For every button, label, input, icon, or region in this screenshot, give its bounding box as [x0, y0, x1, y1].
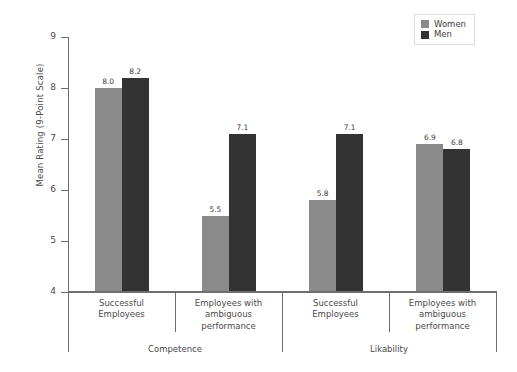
y-tick-label-5: 5	[30, 235, 56, 245]
category-label-line1: Employees with	[175, 298, 282, 309]
bar-women-competence-successful[interactable]	[95, 88, 122, 292]
plot-area: 8.0 8.2 5.5 7.1 5.8 7.1 6.9 6.8	[68, 37, 497, 292]
category-label-line2: ambiguous	[175, 309, 282, 320]
category-label-line2: ambiguous	[389, 309, 496, 320]
bar-value-label: 5.8	[303, 189, 342, 198]
category-label-likability-ambiguous: Employees with ambiguous performance	[389, 298, 496, 332]
category-label-line2: Employees	[282, 309, 389, 320]
y-tick-label-9: 9	[30, 31, 56, 41]
category-label-competence-ambiguous: Employees with ambiguous performance	[175, 298, 282, 332]
bar-chart: Women Men Mean Rating (9-Point Scale) 9 …	[0, 0, 517, 372]
group-axis-band: Competence Likability	[68, 340, 497, 364]
y-tick-label-7: 7	[30, 133, 56, 143]
y-tick-label-4: 4	[30, 286, 56, 296]
category-label-likability-successful: Successful Employees	[282, 298, 389, 321]
bar-value-label: 5.5	[196, 205, 235, 214]
y-tick-label-8: 8	[30, 82, 56, 92]
group-separator-left-edge	[68, 292, 69, 352]
legend-label-women: Women	[434, 19, 466, 29]
bar-women-likability-ambiguous[interactable]	[416, 144, 443, 292]
bar-women-competence-ambiguous[interactable]	[202, 216, 229, 293]
category-label-line2: Employees	[68, 309, 175, 320]
bar-men-competence-successful[interactable]	[122, 78, 149, 292]
legend-item-women: Women	[421, 19, 466, 29]
bar-women-likability-successful[interactable]	[309, 200, 336, 292]
group-label-competence: Competence	[68, 344, 282, 354]
group-label-likability: Likability	[282, 344, 496, 354]
category-label-competence-successful: Successful Employees	[68, 298, 175, 321]
category-label-line1: Successful	[282, 298, 389, 309]
women-color-swatch-icon	[421, 20, 429, 28]
category-label-line1: Successful	[68, 298, 175, 309]
bar-value-label: 7.1	[223, 123, 262, 132]
bar-men-likability-ambiguous[interactable]	[443, 149, 470, 292]
category-label-line3: performance	[389, 321, 496, 332]
category-label-line3: performance	[175, 321, 282, 332]
group-separator-middle	[282, 292, 283, 352]
y-axis-title: Mean Rating (9-Point Scale)	[35, 15, 45, 235]
bar-value-label: 6.8	[437, 138, 476, 147]
bar-value-label: 7.1	[330, 123, 369, 132]
group-separator-right-edge	[496, 292, 497, 352]
bar-value-label: 8.2	[116, 67, 155, 76]
category-label-line1: Employees with	[389, 298, 496, 309]
bar-value-label: 8.0	[89, 77, 128, 86]
bar-men-likability-successful[interactable]	[336, 134, 363, 292]
y-tick-label-6: 6	[30, 184, 56, 194]
